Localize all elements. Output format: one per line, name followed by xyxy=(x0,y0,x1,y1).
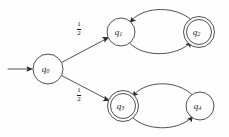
edge-q0-to-q1 xyxy=(62,37,110,62)
edge-q4-to-q3-curve xyxy=(135,84,193,95)
state-node-q3[interactable]: q3 xyxy=(108,91,139,122)
edge-weight-q0-to-q3: 1 2 xyxy=(72,87,86,103)
edge-q2-to-q1-curve xyxy=(133,9,192,20)
fraction-one-half-upper: 1 2 xyxy=(76,21,82,37)
fraction-numerator: 1 xyxy=(76,21,82,28)
edge-weight-q0-to-q1: 1 2 xyxy=(72,21,86,37)
state-node-q1[interactable]: q1 xyxy=(107,18,135,46)
fraction-denominator: 2 xyxy=(76,96,82,103)
start-arrow xyxy=(8,66,33,72)
state-diagram: q0 q1 q2 q3 xyxy=(0,0,229,137)
edge-q2-to-q1 xyxy=(130,9,192,22)
state-node-q4[interactable]: q4 xyxy=(186,92,214,120)
edge-q1-to-q2-curve xyxy=(130,44,189,54)
fraction-one-half-lower: 1 2 xyxy=(76,87,82,103)
edge-q3-to-q4-curve xyxy=(133,118,191,128)
edge-q0-to-q1-line xyxy=(62,40,106,63)
state-diagram-canvas: q0 q1 q2 q3 xyxy=(0,0,229,137)
edge-q3-to-q4 xyxy=(133,116,194,128)
edge-q4-to-q3 xyxy=(132,84,193,97)
state-node-q0[interactable]: q0 xyxy=(33,54,63,84)
fraction-numerator: 1 xyxy=(76,87,82,94)
edge-q1-to-q2 xyxy=(130,42,192,54)
fraction-denominator: 2 xyxy=(76,30,82,37)
state-node-q2[interactable]: q2 xyxy=(184,17,215,48)
